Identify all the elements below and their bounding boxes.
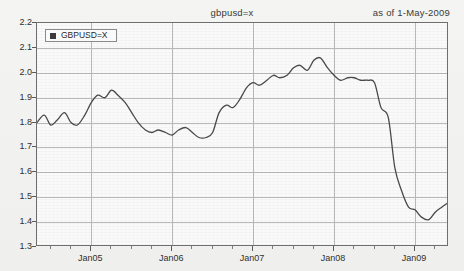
x-tick-label: Jan07 [240, 253, 265, 263]
x-tick-minor [212, 246, 213, 249]
x-tick-minor [232, 246, 233, 249]
y-tick-mark [32, 122, 36, 123]
as-of-label: as of 1-May-2009 [373, 7, 450, 18]
x-tick-label: Jan05 [78, 253, 103, 263]
x-tick-minor [131, 246, 132, 249]
y-tick-mark [32, 221, 36, 222]
y-tick-label: 1.9 [2, 92, 32, 102]
x-tick-label: Jan06 [159, 253, 184, 263]
x-tick-minor [374, 246, 375, 249]
y-tick-label: 2.0 [2, 67, 32, 77]
x-tick-minor [110, 246, 111, 249]
plot-area: GBPUSD=X [36, 22, 448, 246]
chart-card: gbpusd=x as of 1-May-2009 2.22.12.01.91.… [0, 0, 464, 271]
series-path-gbpusd [37, 57, 447, 219]
legend-item-label: GBPUSD=X [61, 31, 108, 40]
y-tick-mark [32, 47, 36, 48]
x-tick-minor [394, 246, 395, 249]
x-tick-minor [293, 246, 294, 249]
y-tick-mark [32, 196, 36, 197]
x-tick-minor [313, 246, 314, 249]
y-tick-mark [32, 246, 36, 247]
x-tick-major [414, 246, 415, 251]
x-tick-minor [151, 246, 152, 249]
x-tick-label: Jan09 [402, 253, 427, 263]
y-tick-mark [32, 72, 36, 73]
y-tick-label: 1.4 [2, 216, 32, 226]
y-tick-label: 2.2 [2, 17, 32, 27]
y-tick-mark [32, 22, 36, 23]
x-tick-minor [191, 246, 192, 249]
series-line-chart [37, 23, 447, 245]
legend: GBPUSD=X [45, 29, 117, 42]
x-tick-minor [272, 246, 273, 249]
y-tick-label: 1.6 [2, 166, 32, 176]
plot-inner [37, 23, 447, 245]
y-tick-mark [32, 171, 36, 172]
x-tick-major [90, 246, 91, 251]
x-tick-minor [50, 246, 51, 249]
y-tick-label: 1.5 [2, 191, 32, 201]
y-tick-label: 1.3 [2, 241, 32, 251]
y-tick-label: 2.1 [2, 42, 32, 52]
x-tick-label: Jan08 [321, 253, 346, 263]
x-tick-minor [434, 246, 435, 249]
y-tick-label: 1.7 [2, 141, 32, 151]
x-tick-minor [70, 246, 71, 249]
chart-screenshot: gbpusd=x as of 1-May-2009 2.22.12.01.91.… [0, 0, 464, 271]
y-tick-label: 1.8 [2, 117, 32, 127]
y-tick-mark [32, 97, 36, 98]
x-tick-major [171, 246, 172, 251]
y-tick-mark [32, 146, 36, 147]
x-tick-major [333, 246, 334, 251]
x-tick-minor [353, 246, 354, 249]
x-tick-major [252, 246, 253, 251]
square-marker-icon [50, 33, 56, 39]
